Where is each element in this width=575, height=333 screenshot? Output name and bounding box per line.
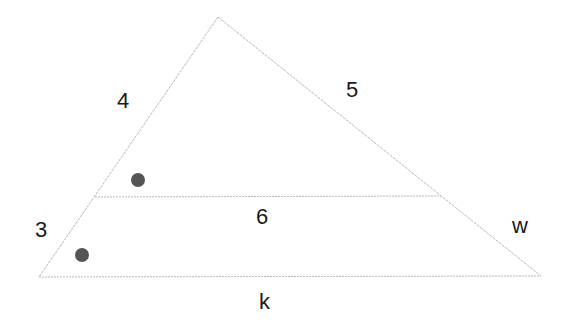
label-right-upper: 5: [346, 79, 358, 101]
label-left-lower: 3: [35, 219, 47, 241]
base-side: [39, 276, 541, 277]
label-base: k: [259, 291, 270, 313]
label-right-lower: w: [512, 215, 528, 237]
label-parallel: 6: [256, 206, 268, 228]
triangle-diagram: 4 5 3 6 w k: [0, 0, 575, 333]
angle-marker-upper: [131, 173, 145, 187]
right-side: [218, 17, 541, 276]
parallel-segment: [95, 196, 441, 197]
triangle-figure: [0, 0, 575, 333]
angle-marker-lower: [75, 248, 89, 262]
left-side: [39, 17, 218, 277]
label-left-upper: 4: [117, 90, 129, 112]
